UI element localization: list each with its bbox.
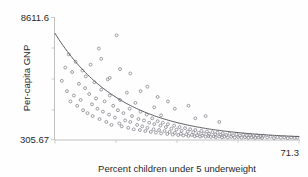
- y-axis-max-label: 8611.6: [21, 12, 49, 23]
- y-axis-min-label: 305.67: [20, 134, 49, 145]
- y-axis-title: Per-capita GNP: [21, 45, 32, 112]
- x-axis-max-label: 71.3: [281, 147, 300, 158]
- figure-background: [0, 0, 308, 177]
- scatter-plot-figure: 8611.6 305.67 71.3 Per-capita GNP Percen…: [0, 0, 308, 177]
- plot-canvas: 8611.6 305.67 71.3 Per-capita GNP Percen…: [0, 0, 308, 177]
- x-axis-title: Percent children under 5 underweight: [98, 163, 256, 174]
